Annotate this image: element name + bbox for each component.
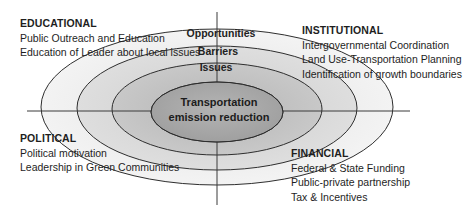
quadrant-item: Public-private partnership	[291, 175, 410, 190]
quadrant-heading-political: POLITICAL	[20, 131, 179, 146]
core-label-line2: emission reduction	[169, 111, 270, 123]
quadrant-item: Land Use-Transportation Planning	[302, 52, 462, 67]
quadrant-item: Public Outreach and Education	[20, 31, 200, 46]
ring-label-barriers: Barriers	[198, 45, 238, 57]
ring-label-issues: Issues	[200, 61, 233, 73]
quadrant-heading-financial: FINANCIAL	[291, 146, 410, 161]
quadrant-institutional: INSTITUTIONAL Intergovernmental Coordina…	[302, 23, 462, 81]
quadrant-educational: EDUCATIONAL Public Outreach and Educatio…	[20, 16, 200, 60]
quadrant-item: Political motivation	[20, 146, 179, 161]
quadrant-political: POLITICAL Political motivation Leadershi…	[20, 131, 179, 175]
quadrant-heading-educational: EDUCATIONAL	[20, 16, 200, 31]
quadrant-heading-institutional: INSTITUTIONAL	[302, 23, 462, 38]
core-label-line1: Transportation	[180, 96, 257, 108]
quadrant-item: Education of Leader about local issues	[20, 45, 200, 60]
quadrant-item: Federal & State Funding	[291, 161, 410, 176]
quadrant-item: Tax & Incentives	[291, 190, 410, 205]
quadrant-financial: FINANCIAL Federal & State Funding Public…	[291, 146, 410, 204]
quadrant-item: Intergovernmental Coordination	[302, 38, 462, 53]
quadrant-item: Identification of growth boundaries	[302, 67, 462, 82]
quadrant-item: Leadership in Green Communities	[20, 160, 179, 175]
